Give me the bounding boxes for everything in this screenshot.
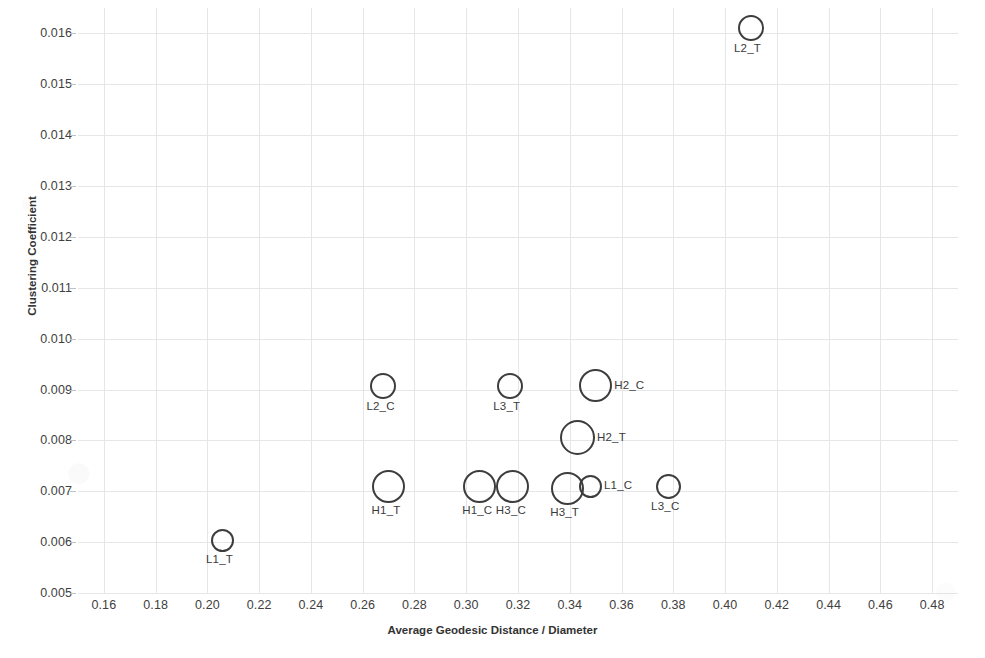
y-tick-label: 0.014 xyxy=(4,128,72,142)
data-point-l1_t[interactable] xyxy=(211,529,234,552)
gridline-horizontal xyxy=(78,186,958,187)
gridline-vertical xyxy=(880,8,881,593)
y-tick-label: 0.005 xyxy=(4,586,72,600)
data-point-h1_c[interactable] xyxy=(463,470,496,503)
y-tick-mark xyxy=(70,186,76,187)
y-tick-label: 0.007 xyxy=(4,484,72,498)
y-tick-mark xyxy=(70,593,76,594)
y-tick-mark xyxy=(70,237,76,238)
gridline-vertical xyxy=(622,8,623,593)
gridline-horizontal xyxy=(78,135,958,136)
y-tick-label: 0.013 xyxy=(4,179,72,193)
y-tick-label: 0.008 xyxy=(4,433,72,447)
data-point-label-h3_c: H3_C xyxy=(496,504,526,516)
gridline-vertical xyxy=(104,8,105,593)
gridline-horizontal xyxy=(78,84,958,85)
y-tick-mark xyxy=(70,440,76,441)
gridline-horizontal xyxy=(78,593,958,594)
y-tick-mark xyxy=(70,33,76,34)
data-point-label-l3_c: L3_C xyxy=(651,500,679,512)
data-point-h1_t[interactable] xyxy=(372,470,405,503)
data-point-label-h3_t: H3_T xyxy=(550,506,579,518)
data-point-label-l1_t: L1_T xyxy=(206,553,233,565)
data-point-l1_c[interactable] xyxy=(579,475,602,498)
scatter-chart: Clustering Coefficient 0.0050.0060.0070.… xyxy=(0,0,985,658)
y-tick-mark xyxy=(70,542,76,543)
gridline-horizontal xyxy=(78,339,958,340)
y-tick-label: 0.006 xyxy=(4,535,72,549)
gridline-vertical xyxy=(311,8,312,593)
y-axis-tick-labels: 0.0050.0060.0070.0080.0090.0100.0110.012… xyxy=(0,8,72,593)
y-tick-label: 0.016 xyxy=(4,26,72,40)
gridline-horizontal xyxy=(78,542,958,543)
data-point-label-h1_t: H1_T xyxy=(372,504,401,516)
gridline-vertical xyxy=(259,8,260,593)
data-point-label-h2_t: H2_T xyxy=(597,431,626,443)
y-tick-label: 0.011 xyxy=(4,281,72,295)
y-tick-label: 0.015 xyxy=(4,77,72,91)
y-tick-label: 0.009 xyxy=(4,383,72,397)
data-point-h2_c[interactable] xyxy=(579,369,612,402)
y-tick-mark xyxy=(70,390,76,391)
gridline-vertical xyxy=(725,8,726,593)
gridline-horizontal xyxy=(78,440,958,441)
gridline-vertical xyxy=(156,8,157,593)
gridline-vertical xyxy=(777,8,778,593)
y-tick-label: 0.010 xyxy=(4,332,72,346)
gridline-horizontal xyxy=(78,237,958,238)
x-tick-label: 0.48 xyxy=(902,598,962,612)
data-point-label-l3_t: L3_T xyxy=(493,400,520,412)
data-point-l2_t[interactable] xyxy=(738,15,764,41)
data-point-label-h2_c: H2_C xyxy=(614,379,644,391)
data-point-label-h1_c: H1_C xyxy=(462,504,492,516)
plot-area: L2_TL2_CL3_TH2_CH2_TH1_TH1_CH3_CH3_TL1_C… xyxy=(78,8,958,593)
data-point-l3_t[interactable] xyxy=(497,373,523,399)
y-tick-mark xyxy=(70,135,76,136)
gridline-vertical xyxy=(207,8,208,593)
gridline-vertical xyxy=(363,8,364,593)
gridline-vertical xyxy=(414,8,415,593)
gridline-horizontal xyxy=(78,33,958,34)
y-tick-mark xyxy=(70,491,76,492)
y-tick-mark xyxy=(70,84,76,85)
y-tick-label: 0.012 xyxy=(4,230,72,244)
data-point-l3_c[interactable] xyxy=(656,474,681,499)
data-point-h3_c[interactable] xyxy=(496,470,529,503)
y-tick-mark xyxy=(70,288,76,289)
x-axis-tick-labels: 0.160.180.200.220.240.260.280.300.320.34… xyxy=(78,598,958,620)
data-point-h2_t[interactable] xyxy=(560,420,595,455)
data-point-label-l2_t: L2_T xyxy=(734,42,761,54)
data-point-l2_c[interactable] xyxy=(370,373,396,399)
data-point-label-l1_c: L1_C xyxy=(604,479,632,491)
y-tick-mark xyxy=(70,339,76,340)
gridline-vertical xyxy=(829,8,830,593)
gridline-vertical xyxy=(932,8,933,593)
data-point-label-l2_c: L2_C xyxy=(366,400,394,412)
gridline-horizontal xyxy=(78,288,958,289)
x-axis-title: Average Geodesic Distance / Diameter xyxy=(0,624,985,636)
